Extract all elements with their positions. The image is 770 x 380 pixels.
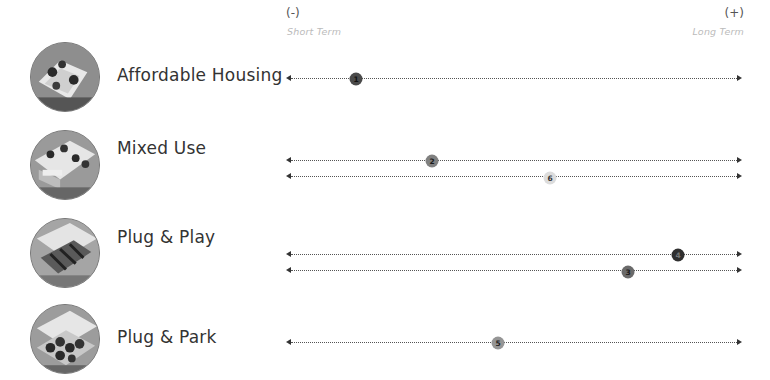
dotted-line xyxy=(291,342,737,343)
timeline-track: 3 xyxy=(286,267,742,275)
arrow-right-icon xyxy=(737,157,742,163)
aerial-mixed-use-thumbnail-icon xyxy=(30,130,100,200)
timeline-marker[interactable]: 1 xyxy=(350,73,363,86)
aerial-housing-thumbnail-icon xyxy=(30,42,100,112)
timeline-marker[interactable]: 4 xyxy=(672,249,685,262)
dotted-line xyxy=(291,254,737,255)
long-term-label: Long Term xyxy=(692,26,744,37)
short-term-label: Short Term xyxy=(287,26,341,37)
row-label-plug-park: Plug & Park xyxy=(117,327,217,347)
aerial-plug-park-thumbnail-icon xyxy=(30,304,100,374)
row-label-mixed-use: Mixed Use xyxy=(117,138,206,158)
timeline-marker[interactable]: 2 xyxy=(426,155,439,168)
dotted-line xyxy=(291,270,737,271)
timeline-marker[interactable]: 5 xyxy=(492,337,505,350)
timeline-track: 4 xyxy=(286,251,742,259)
arrow-right-icon xyxy=(737,267,742,273)
dotted-line xyxy=(291,176,737,177)
timeline-marker[interactable]: 6 xyxy=(544,172,557,185)
row-label-plug-play: Plug & Play xyxy=(117,227,215,247)
timeline-track: 1 xyxy=(286,75,742,83)
arrow-right-icon xyxy=(737,173,742,179)
dotted-line xyxy=(291,160,737,161)
aerial-plug-play-thumbnail-icon xyxy=(30,218,100,288)
arrow-right-icon xyxy=(737,75,742,81)
timeline-track: 5 xyxy=(286,339,742,347)
row-label-affordable-housing: Affordable Housing xyxy=(117,65,282,85)
long-term-symbol: (+) xyxy=(725,6,744,20)
timeline-track: 6 xyxy=(286,173,742,181)
timeline-marker[interactable]: 3 xyxy=(622,266,635,279)
short-term-symbol: (-) xyxy=(286,6,300,20)
arrow-right-icon xyxy=(737,339,742,345)
arrow-right-icon xyxy=(737,251,742,257)
timeline-track: 2 xyxy=(286,157,742,165)
